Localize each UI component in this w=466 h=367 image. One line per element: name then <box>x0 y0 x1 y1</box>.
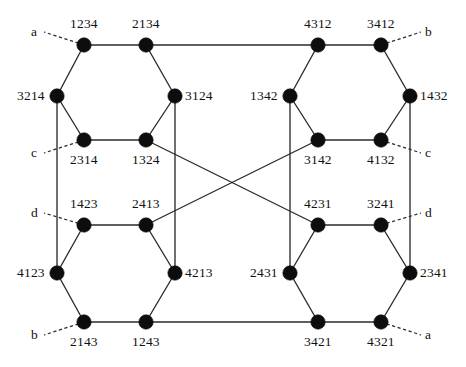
node-label-4321: 4321 <box>367 335 395 349</box>
node-label-2314: 2314 <box>70 153 98 167</box>
node-label-1324: 1324 <box>132 153 160 167</box>
graph-edge <box>381 45 410 96</box>
graph-svg <box>0 0 466 367</box>
graph-node-3412[interactable] <box>374 38 388 52</box>
graph-node-1243[interactable] <box>139 315 153 329</box>
node-label-2431: 2431 <box>250 266 278 280</box>
port-label-a: a <box>31 25 37 39</box>
node-label-2134: 2134 <box>132 17 160 31</box>
graph-node-2314[interactable] <box>77 133 91 147</box>
graph-node-4231[interactable] <box>311 218 325 232</box>
graph-edge <box>290 273 318 322</box>
graph-edge <box>381 225 410 273</box>
node-label-2341: 2341 <box>420 266 448 280</box>
graph-edge <box>381 273 410 322</box>
graph-node-4123[interactable] <box>50 266 64 280</box>
graph-node-4132[interactable] <box>374 133 388 147</box>
graph-edge <box>57 96 84 140</box>
port-label-d: d <box>31 206 38 220</box>
graph-node-3214[interactable] <box>50 89 64 103</box>
graph-edge <box>381 96 410 140</box>
port-label-a: a <box>425 328 431 342</box>
graph-node-3421[interactable] <box>311 315 325 329</box>
graph-node-2431[interactable] <box>283 266 297 280</box>
graph-node-2341[interactable] <box>403 266 417 280</box>
graph-node-2143[interactable] <box>77 315 91 329</box>
port-label-c: c <box>31 146 37 160</box>
graph-node-1342[interactable] <box>283 89 297 103</box>
node-label-3241: 3241 <box>367 197 395 211</box>
node-label-1234: 1234 <box>70 17 98 31</box>
node-label-2143: 2143 <box>70 335 98 349</box>
node-label-4213: 4213 <box>185 266 213 280</box>
graph-node-2134[interactable] <box>139 38 153 52</box>
node-label-3214: 3214 <box>17 89 45 103</box>
graph-edge <box>290 45 318 96</box>
node-label-4132: 4132 <box>367 153 395 167</box>
graph-node-1324[interactable] <box>139 133 153 147</box>
node-label-3412: 3412 <box>367 17 395 31</box>
graph-node-4213[interactable] <box>168 266 182 280</box>
node-label-1423: 1423 <box>70 197 98 211</box>
graph-edge <box>290 96 318 140</box>
graph-node-3142[interactable] <box>311 133 325 147</box>
graph-edge <box>146 96 175 140</box>
graph-node-4312[interactable] <box>311 38 325 52</box>
node-label-3142: 3142 <box>304 153 332 167</box>
graph-canvas: abccddba12342134431234123214312413421432… <box>0 0 466 367</box>
graph-node-3124[interactable] <box>168 89 182 103</box>
graph-edge <box>57 225 84 273</box>
edges-layer <box>57 45 410 322</box>
port-label-b: b <box>425 25 432 39</box>
node-label-4312: 4312 <box>304 17 332 31</box>
graph-node-4321[interactable] <box>374 315 388 329</box>
node-label-1243: 1243 <box>132 335 160 349</box>
port-label-b: b <box>31 328 38 342</box>
graph-edge <box>290 225 318 273</box>
node-label-1432: 1432 <box>420 89 448 103</box>
node-label-3124: 3124 <box>185 89 213 103</box>
graph-node-1234[interactable] <box>77 38 91 52</box>
graph-node-2413[interactable] <box>139 218 153 232</box>
graph-node-1432[interactable] <box>403 89 417 103</box>
graph-edge <box>57 45 84 96</box>
graph-edge <box>57 273 84 322</box>
port-label-d: d <box>425 206 432 220</box>
graph-edge <box>146 45 175 96</box>
node-label-2413: 2413 <box>132 197 160 211</box>
node-label-4231: 4231 <box>304 197 332 211</box>
graph-node-3241[interactable] <box>374 218 388 232</box>
port-label-c: c <box>425 146 431 160</box>
graph-edge <box>146 273 175 322</box>
node-label-3421: 3421 <box>304 335 332 349</box>
node-label-1342: 1342 <box>250 89 278 103</box>
node-label-4123: 4123 <box>17 266 45 280</box>
graph-node-1423[interactable] <box>77 218 91 232</box>
graph-edge <box>146 225 175 273</box>
